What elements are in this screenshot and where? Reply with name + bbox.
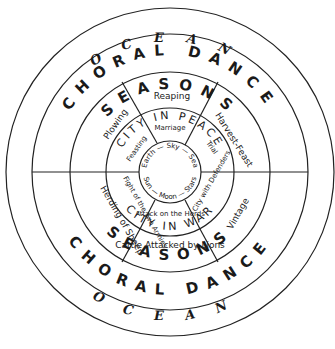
svg-text:Earth — Sky — Sea: Earth — Sky — Sea	[140, 142, 199, 169]
vintage: Vintage	[225, 196, 251, 231]
shield-diagram: OCEAN OCEAN CHORAL DANCE CHORAL DANCE SE…	[0, 0, 335, 349]
reaping: Reaping	[154, 91, 191, 101]
cattle-lions: Cattle Attacked by Lions	[115, 240, 225, 250]
marriage: Marriage	[155, 124, 186, 132]
center-top: Earth — Sky — Sea	[140, 142, 199, 169]
center-bottom: Sun — Moon — Stars	[142, 176, 199, 202]
svg-text:Sun — Moon — Stars: Sun — Moon — Stars	[142, 176, 199, 202]
